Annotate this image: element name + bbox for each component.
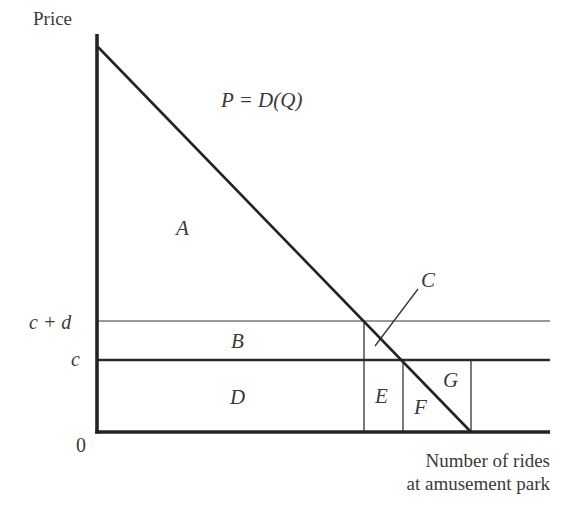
x-axis-title-line2: at amusement park (406, 472, 550, 495)
x-axis-title-line1: Number of rides (406, 449, 550, 472)
region-a-label: A (176, 218, 189, 239)
price-tick-c: c (71, 349, 80, 369)
x-axis-title: Number of rides at amusement park (406, 449, 550, 495)
region-c-label: C (421, 270, 435, 291)
region-d-label: D (230, 387, 245, 408)
region-b-label: B (231, 331, 244, 352)
region-e-label: E (375, 386, 388, 407)
demand-curve-label: P = D(Q) (221, 90, 302, 111)
region-f-label: F (414, 397, 427, 418)
price-tick-c-plus-d: c + d (29, 312, 71, 332)
diagram-canvas (0, 0, 579, 513)
y-axis-title: Price (33, 9, 72, 28)
surplus-diagram: Price Number of rides at amusement park … (0, 0, 579, 513)
region-g-label: G (443, 370, 458, 391)
origin-label: 0 (76, 435, 86, 455)
region-c-leader-line (375, 289, 418, 346)
